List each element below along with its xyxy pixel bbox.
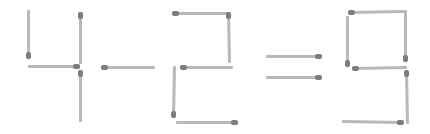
match-stick-body (406, 70, 410, 124)
match-stick-body (348, 10, 404, 14)
matchstick[interactable] (407, 70, 408, 124)
match-stick-body (342, 120, 404, 124)
match-head-icon (346, 60, 351, 67)
match-head-icon (352, 65, 359, 70)
match-head-icon (348, 9, 355, 14)
matchstick[interactable] (342, 121, 404, 122)
match-head-icon (404, 55, 409, 62)
match-stick-body (352, 66, 407, 70)
matchstick-puzzle: 4 - 2 = 9 (0, 0, 430, 134)
matchstick[interactable] (348, 11, 404, 12)
match-head-icon (405, 70, 410, 77)
matchstick[interactable] (352, 67, 407, 68)
match-head-icon (397, 119, 404, 124)
digit-9 (0, 0, 430, 134)
